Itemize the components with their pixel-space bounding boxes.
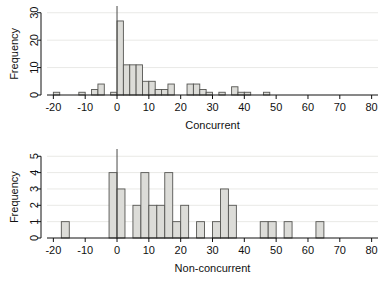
histogram-bar [187,84,193,95]
x-tick-label: 0 [114,244,120,256]
x-tick-label: 80 [366,244,378,256]
non-concurrent-histogram-svg: -20-1001020304050607080012345Non-concurr… [0,143,389,286]
histogram-bar [157,205,165,238]
chart-panel-concurrent: -20-10010203040506070800102030Concurrent… [0,0,389,143]
histogram-bar [109,173,117,238]
x-tick-label: 10 [143,101,155,113]
histogram-bar [228,205,236,238]
histogram-bar [123,65,129,95]
x-tick-label: -20 [45,244,61,256]
histogram-bar [213,222,221,238]
histogram-bar [316,222,324,238]
histogram-bar [149,81,155,95]
y-tick-label: 2 [28,202,40,208]
x-tick-label: 50 [270,244,282,256]
x-tick-label: -20 [45,101,61,113]
histogram-bar [142,81,148,95]
y-tick-label: 10 [28,61,40,73]
y-tick-label: 5 [28,153,40,159]
x-tick-label: 0 [114,101,120,113]
y-axis-label: Frequency [8,27,20,79]
histogram-bar [200,90,206,95]
concurrent-histogram-svg: -20-10010203040506070800102030Concurrent… [0,0,389,143]
y-tick-label: 1 [28,219,40,225]
histogram-bar [232,87,238,95]
histogram-bar [155,90,161,95]
histogram-bar [133,205,141,238]
histogram-bar [173,222,181,238]
y-axis-label: Frequency [8,171,20,223]
x-axis-label: Non-concurrent [175,262,251,274]
x-tick-label: 60 [302,244,314,256]
histogram-bar [181,205,189,238]
x-tick-label: 10 [143,244,155,256]
x-tick-label: 50 [270,101,282,113]
x-axis-label: Concurrent [185,119,239,131]
x-tick-label: 40 [238,244,250,256]
x-tick-label: 70 [334,101,346,113]
histogram-bar [117,189,125,238]
y-tick-label: 0 [28,92,40,98]
histogram-bar [260,222,268,238]
y-tick-label: 3 [28,186,40,192]
x-tick-label: 20 [175,101,187,113]
histogram-bar [162,90,168,95]
histogram-bar [284,222,292,238]
histogram-bar [92,90,98,95]
y-tick-label: 0 [28,235,40,241]
histogram-bar [220,189,228,238]
histogram-bar [136,65,142,95]
histogram-bar [165,173,173,238]
y-tick-label: 20 [28,34,40,46]
x-tick-label: 20 [175,244,187,256]
histogram-bar [130,65,136,95]
x-tick-label: 30 [206,244,218,256]
x-tick-label: -10 [77,244,93,256]
x-tick-label: 70 [334,244,346,256]
histogram-bar [98,84,104,95]
x-tick-label: 30 [206,101,218,113]
histogram-bar [197,222,205,238]
x-tick-label: 80 [366,101,378,113]
histogram-bar [149,205,157,238]
histogram-bar [117,21,123,95]
y-tick-label: 30 [28,7,40,19]
histogram-bar [193,84,199,95]
y-tick-label: 4 [28,170,40,176]
histogram-bar [141,173,149,238]
histogram-bar [268,222,276,238]
histogram-bar [168,84,174,95]
x-tick-label: 40 [238,101,250,113]
figure-two-histograms: -20-10010203040506070800102030Concurrent… [0,0,389,286]
histogram-bar [61,222,69,238]
x-tick-label: 60 [302,101,314,113]
chart-panel-non-concurrent: -20-1001020304050607080012345Non-concurr… [0,143,389,286]
x-tick-label: -10 [77,101,93,113]
